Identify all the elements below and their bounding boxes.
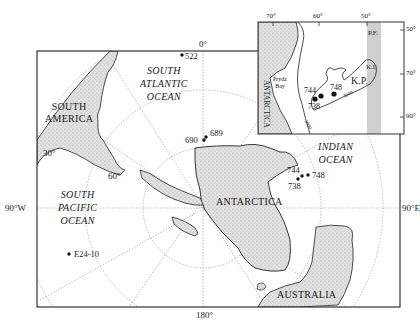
south-pacific-ocean-label: SOUTH PACIFIC OCEAN (58, 188, 97, 227)
indian-ocean-label: INDIAN OCEAN (318, 140, 353, 166)
site-label-744: 744 (287, 166, 300, 175)
longitude-label-0: 0° (199, 40, 207, 49)
kerguelen-plateau-label: K.P. (351, 76, 368, 86)
inset-lat-label-90: 90° (406, 113, 416, 120)
polar-front-band (367, 22, 381, 134)
site-label-e24-10: E24-10 (74, 250, 99, 259)
australia-label: AUSTRALIA (277, 290, 336, 300)
polar-front-label: P.F. (368, 30, 378, 37)
site-label-690: 690 (185, 136, 198, 145)
inset-lon-label-60: 60° (313, 13, 323, 20)
site-label-748: 748 (312, 171, 325, 180)
inset-lon-label-50: 50° (361, 13, 371, 20)
island (172, 217, 198, 236)
longitude-label-90w: 90°W (5, 204, 26, 213)
site-label-689: 689 (210, 129, 223, 138)
antarctic-peninsula (140, 170, 205, 205)
antarctica-label: ANTARCTICA (216, 197, 283, 207)
tasmania-island (257, 283, 266, 290)
kerguelen-islands-label: K.I. (366, 64, 377, 71)
latitude-label-30: 30° (43, 149, 56, 158)
inset-site-label-738: 738 (308, 103, 320, 111)
site-label-738: 738 (288, 182, 301, 191)
longitude-label-180: 180° (196, 311, 213, 320)
inset-lon-label-70: 70° (266, 13, 276, 20)
inset-site-label-748: 748 (330, 84, 342, 92)
south-america-label: SOUTH AMERICA (45, 101, 93, 125)
site-label-522: 522 (185, 52, 198, 61)
inset-lat-label-70: 70° (406, 70, 416, 77)
inset-lat-label-50: 50° (406, 26, 416, 33)
south-atlantic-ocean-label: SOUTH ATLANTIC OCEAN (140, 64, 188, 103)
antarctica-landmass (195, 144, 298, 271)
inset-site-label-744: 744 (304, 87, 316, 95)
prydz-bay-label: Prydz Bay (273, 76, 287, 90)
latitude-label-60: 60° (108, 172, 121, 181)
inset-antarctica-label: ANTARCTICA (263, 80, 271, 128)
longitude-label-90e: 90°E (402, 204, 420, 213)
